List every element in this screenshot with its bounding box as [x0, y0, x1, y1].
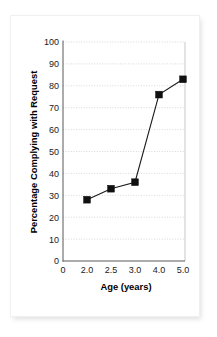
- data-point-marker: [156, 91, 163, 98]
- data-point-marker: [180, 76, 187, 83]
- figure-card: 0 10 20 30 40 50 60 70 80 90 100 0 2.0 2…: [11, 16, 199, 316]
- data-point-marker: [84, 196, 91, 203]
- y-tick-labels: 0 10 20 30 40 50 60 70 80 90 100: [44, 37, 59, 266]
- x-tick-label: 2.5: [105, 265, 118, 275]
- x-tick-label: 2.0: [81, 265, 94, 275]
- x-tick-labels: 0 2.0 2.5 3.0 4.0 5.0: [60, 265, 189, 275]
- chart-plot-area: 0 10 20 30 40 50 60 70 80 90 100 0 2.0 2…: [11, 16, 199, 316]
- x-tick-label: 3.0: [129, 265, 142, 275]
- y-tick-label: 60: [49, 125, 59, 135]
- x-tick-label: 4.0: [153, 265, 166, 275]
- data-point-marker: [108, 185, 115, 192]
- y-tick-label: 70: [49, 103, 59, 113]
- y-axis-title: Percentage Complying with Request: [28, 71, 39, 234]
- y-tick-label: 10: [49, 235, 59, 245]
- x-tick-label: 0: [60, 265, 65, 275]
- y-tick-label: 80: [49, 81, 59, 91]
- y-tick-label: 90: [49, 59, 59, 69]
- x-axis-title: Age (years): [100, 281, 151, 292]
- y-tick-label: 0: [54, 256, 59, 266]
- line-chart-svg: 0 10 20 30 40 50 60 70 80 90 100 0 2.0 2…: [11, 16, 199, 316]
- data-point-marker: [132, 179, 139, 186]
- y-tick-label: 40: [49, 169, 59, 179]
- x-tick-label: 5.0: [177, 265, 190, 275]
- y-tick-label: 100: [44, 37, 59, 47]
- y-tick-label: 50: [49, 147, 59, 157]
- y-tick-label: 30: [49, 191, 59, 201]
- y-tick-label: 20: [49, 213, 59, 223]
